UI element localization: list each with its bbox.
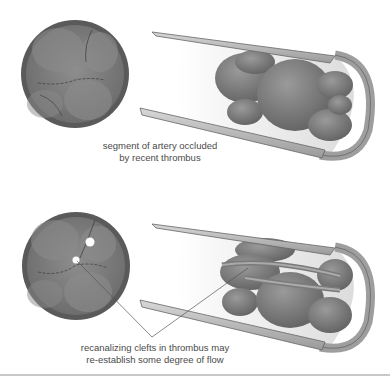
bottom-caption: recanalizing clefts in thrombus may re-e… bbox=[65, 342, 245, 366]
thrombus-lobe bbox=[27, 280, 63, 308]
top-caption-line1: segment of artery occluded bbox=[85, 140, 235, 152]
thrombus-lobe bbox=[227, 99, 263, 125]
bottom-cross-section bbox=[22, 212, 130, 320]
top-caption: segment of artery occluded by recent thr… bbox=[85, 140, 235, 164]
thrombus-lobe bbox=[222, 288, 258, 316]
thrombus-lobe bbox=[64, 272, 112, 312]
thrombus-lobe bbox=[80, 226, 116, 262]
thrombus-lobe bbox=[27, 90, 63, 118]
thrombus-lobe bbox=[31, 220, 79, 260]
artery-diagram bbox=[0, 0, 390, 383]
thrombus-lobe bbox=[317, 71, 353, 99]
divider-line bbox=[0, 374, 390, 376]
thrombus-lobe bbox=[308, 297, 352, 333]
thrombus-lobe bbox=[82, 32, 118, 72]
thrombus-lobe bbox=[328, 95, 352, 115]
top-caption-line2: by recent thrombus bbox=[85, 152, 235, 164]
thrombus-lobe bbox=[32, 28, 84, 72]
bottom-caption-line1: recanalizing clefts in thrombus may bbox=[65, 342, 245, 354]
recanalized-channel bbox=[86, 238, 95, 247]
top-cross-section bbox=[21, 20, 129, 128]
bottom-caption-line2: re-establish some degree of flow bbox=[65, 354, 245, 366]
bottom-longitudinal-section bbox=[140, 224, 371, 350]
thrombus-lobe bbox=[64, 80, 112, 120]
